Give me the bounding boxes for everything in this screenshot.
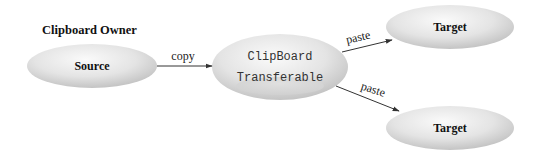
target-top-label: Target [433,20,467,34]
target-bottom-node: Target [386,106,514,150]
paste-edge-bottom: paste [336,79,399,111]
paste-edge-top: paste [342,28,392,52]
target-bottom-label: Target [433,121,467,135]
diagram-canvas: Clipboard Owner Source ClipBoard Transfe… [0,0,539,165]
clipboard-owner-label: Clipboard Owner [42,23,137,37]
copy-label: copy [171,49,194,63]
source-label: Source [74,59,110,73]
clipboard-label: ClipBoard [248,50,313,64]
clipboard-node: ClipBoard Transferable [212,34,348,100]
source-node: Source [27,44,157,88]
copy-edge: copy [157,49,212,66]
target-top-node: Target [386,5,514,49]
paste-label-top: paste [345,28,372,47]
transferable-label: Transferable [237,71,323,85]
